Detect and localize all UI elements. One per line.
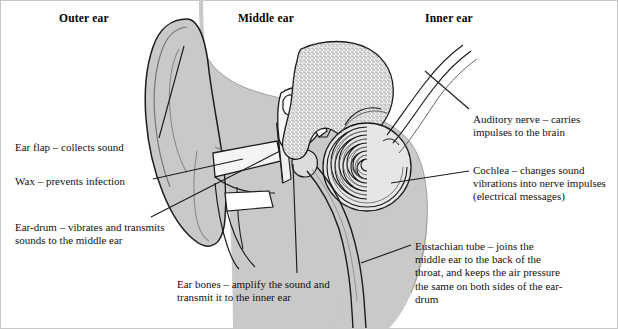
ear-anatomy-diagram: Outer ear Middle ear Inner ear Ear flap … — [0, 0, 618, 329]
label-ear-bones: Ear bones – amplify the sound and transm… — [177, 278, 337, 304]
label-ear-flap: Ear flap – collects sound — [15, 141, 195, 154]
heading-middle-ear: Middle ear — [238, 12, 294, 24]
heading-outer-ear: Outer ear — [59, 12, 109, 24]
label-wax: Wax – prevents infection — [15, 175, 195, 188]
label-auditory-nerve: Auditory nerve – carries impulses to the… — [473, 113, 618, 139]
label-ear-drum: Ear-drum – vibrates and transmits sounds… — [15, 221, 195, 247]
label-cochlea: Cochlea – changes sound vibrations into … — [473, 164, 618, 204]
cochlea-spiral — [323, 123, 411, 211]
heading-inner-ear: Inner ear — [425, 12, 473, 24]
label-eustachian-tube: Eustachian tube – joins the middle ear t… — [415, 240, 565, 306]
